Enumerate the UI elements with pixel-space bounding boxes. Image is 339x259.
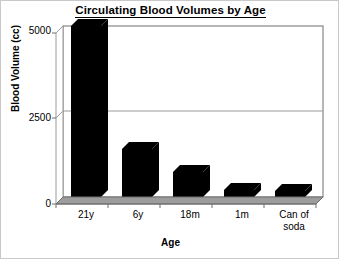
bar-1m [224,183,261,197]
x-axis-title: Age [1,237,339,248]
bar-chart: Circulating Blood Volumes by Age Blood V… [0,0,339,259]
bar-can-of-soda [275,184,312,197]
plot-floor [56,197,323,204]
x-tick-label-can-of-soda: Can of soda [263,209,325,233]
bar-21y [71,19,108,197]
bar-18m [173,165,210,197]
bar-6y [122,142,159,197]
